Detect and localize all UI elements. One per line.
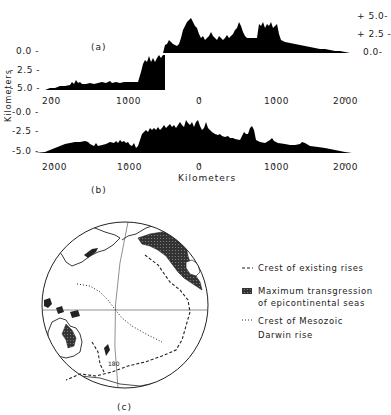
new-zealand bbox=[104, 344, 110, 356]
darwin-rise-crest bbox=[77, 284, 162, 342]
legend-hatched-box-icon bbox=[242, 288, 252, 294]
existing-rises-crest bbox=[66, 255, 190, 380]
meridian-180-label: 180 bbox=[108, 360, 120, 367]
indonesia-islands bbox=[44, 298, 80, 318]
antarctica-coast bbox=[60, 376, 180, 386]
legend-darwin-rise-line1: Crest of Mesozoic bbox=[258, 315, 343, 328]
panel-c-label: (c) bbox=[117, 402, 132, 412]
legend-darwin-rise-line2: Darwin rise bbox=[258, 329, 313, 342]
legend-transgression-line2: of epicontinental seas bbox=[258, 297, 365, 310]
legend-existing-rises: Crest of existing rises bbox=[258, 262, 364, 275]
